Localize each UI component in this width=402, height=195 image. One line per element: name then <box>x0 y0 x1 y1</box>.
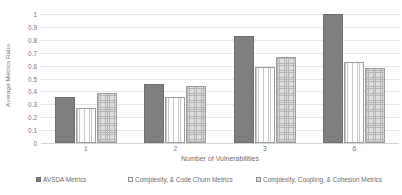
bar[interactable] <box>276 57 296 143</box>
bar-groups <box>41 14 399 143</box>
bar[interactable] <box>344 62 364 143</box>
x-axis-title: Number of Vulnerabilities <box>41 155 399 162</box>
y-axis-tick-label: 0.9 <box>28 23 37 30</box>
bar[interactable] <box>55 97 75 143</box>
bar-group <box>310 14 400 143</box>
y-axis-tick-label: 0.2 <box>28 114 37 121</box>
bar-chart: Average Metrics Ratio 00.10.20.30.40.50.… <box>0 0 402 195</box>
legend-label: AVSDA Metrics <box>43 176 86 183</box>
legend-item[interactable]: AVSDA Metrics <box>36 176 128 183</box>
y-axis-tick-label: 0 <box>33 140 37 147</box>
chart-legend: AVSDA MetricsComplexity, & Code Churn Me… <box>36 176 396 183</box>
bar[interactable] <box>165 97 185 143</box>
bar[interactable] <box>323 14 343 143</box>
hatched-square-swatch-icon <box>256 177 261 182</box>
y-axis-tick-label: 0.5 <box>28 75 37 82</box>
legend-item[interactable]: Complexity, & Code Churn Metrics <box>128 176 256 183</box>
y-axis-tick-label: 0.1 <box>28 127 37 134</box>
y-axis-tick-label: 0.7 <box>28 49 37 56</box>
legend-label: Complexity, Coupling, & Cohesion Metrics <box>263 176 382 183</box>
bar[interactable] <box>365 68 385 143</box>
y-axis-tick-label: 0.8 <box>28 36 37 43</box>
axis-baseline <box>41 143 399 144</box>
y-axis-tick-label: 1 <box>33 11 37 18</box>
bar[interactable] <box>186 86 206 143</box>
y-axis-title-text: Average Metrics Ratio <box>4 44 11 107</box>
bar[interactable] <box>76 108 96 143</box>
bar[interactable] <box>97 93 117 143</box>
y-axis-tick-labels: 00.10.20.30.40.50.60.70.80.91 <box>14 0 40 150</box>
bar[interactable] <box>234 36 254 143</box>
bar-group <box>131 14 221 143</box>
y-axis-tick-label: 0.4 <box>28 88 37 95</box>
y-axis-tick-label: 0.6 <box>28 62 37 69</box>
y-axis-tick-label: 0.3 <box>28 101 37 108</box>
bar-group <box>220 14 310 143</box>
legend-label: Complexity, & Code Churn Metrics <box>135 176 233 183</box>
bar[interactable] <box>255 67 275 143</box>
plot-area <box>41 14 399 143</box>
y-axis-title: Average Metrics Ratio <box>0 0 14 150</box>
open-square-swatch-icon <box>128 177 133 182</box>
bar[interactable] <box>144 84 164 143</box>
filled-square-swatch-icon <box>36 177 41 182</box>
legend-item[interactable]: Complexity, Coupling, & Cohesion Metrics <box>256 176 382 183</box>
bar-group <box>41 14 131 143</box>
